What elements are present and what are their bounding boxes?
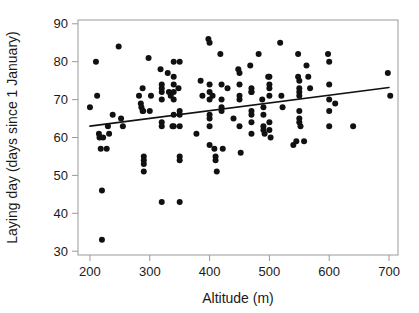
data-point [220,146,226,152]
data-point [211,146,217,152]
data-point [238,150,244,156]
data-point [280,104,286,110]
data-point [198,78,204,84]
data-point [207,142,213,148]
x-tick-label: 200 [79,264,101,279]
data-point [307,85,313,91]
data-point [116,44,122,50]
data-point [199,93,205,99]
data-point [295,51,301,57]
data-point [296,108,302,114]
data-point [210,93,216,99]
data-point [385,70,391,76]
data-point [296,93,302,99]
data-point [387,93,393,99]
data-point [213,157,219,163]
data-point [207,81,213,87]
data-point [118,116,124,122]
data-point [177,59,183,65]
data-point [94,93,100,99]
data-point [165,70,171,76]
scatter-plot-figure: 30405060708090200300400500600700 Altitud… [0,0,419,313]
y-tick-label: 60 [54,130,68,145]
data-point [146,55,152,61]
data-point [262,131,268,137]
data-point [99,237,105,243]
data-point [159,199,165,205]
data-point [99,188,105,194]
data-point [277,40,283,46]
data-point [266,93,272,99]
x-tick-label: 500 [259,264,281,279]
data-point [140,85,146,91]
data-point [177,123,183,129]
data-point [266,119,272,125]
data-point [248,89,254,95]
data-point [207,116,213,122]
data-point [110,112,116,118]
data-point [93,59,99,65]
data-point [305,74,311,80]
data-point [248,112,254,118]
data-point [219,97,225,103]
data-point [193,131,199,137]
y-tick-label: 80 [54,54,68,69]
data-point [260,112,266,118]
data-point [256,51,262,57]
data-point [171,59,177,65]
data-point [237,70,243,76]
y-tick-label: 50 [54,168,68,183]
data-point [326,108,332,114]
x-axis-title: Altitude (m) [202,290,274,306]
y-tick-label: 40 [54,206,68,221]
plot-frame [78,20,398,255]
data-point [158,66,164,72]
data-point [171,123,177,129]
data-point [171,81,177,87]
y-tick-label: 70 [54,92,68,107]
data-point [177,199,183,205]
data-point [217,51,223,57]
data-point [266,85,272,91]
data-point [266,74,272,80]
data-point [136,93,142,99]
data-point [231,116,237,122]
data-point [100,135,106,141]
data-point [298,123,304,129]
data-point [147,108,153,114]
data-point [326,59,332,65]
data-point [247,62,253,68]
data-point [248,131,254,137]
data-point [214,169,220,175]
data-point [278,93,284,99]
data-point [141,153,147,159]
y-tick-label: 30 [54,244,68,259]
data-point [248,119,254,125]
y-tick-label: 90 [54,16,68,31]
data-point [177,157,183,163]
axis-ticks [72,24,389,261]
data-point [219,81,225,87]
data-point [159,89,165,95]
plot-border [78,20,398,255]
data-point [266,127,272,133]
data-point [326,81,332,87]
data-point [332,100,338,106]
data-point [171,74,177,80]
data-point [237,97,243,103]
data-point [303,62,309,68]
data-point [106,131,112,137]
data-point [259,97,265,103]
data-point [225,85,231,91]
data-point [237,123,243,129]
data-point [171,97,177,103]
chart-canvas: 30405060708090200300400500600700 Altitud… [0,0,419,313]
x-tick-label: 700 [378,264,400,279]
data-points [87,36,393,243]
x-tick-label: 400 [199,264,221,279]
data-point [141,169,147,175]
data-point [98,146,104,152]
data-point [159,123,165,129]
data-point [326,123,332,129]
data-point [175,85,181,91]
